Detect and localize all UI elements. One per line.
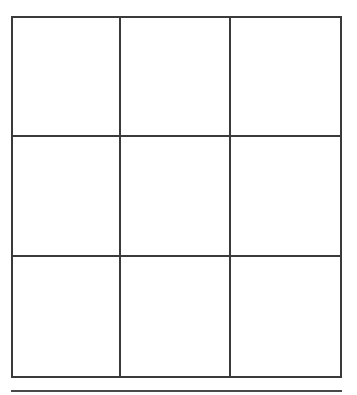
board-cell-0-2[interactable] <box>231 16 342 137</box>
game-area <box>0 0 357 395</box>
board-cell-1-0[interactable] <box>11 137 121 257</box>
board-cell-0-1[interactable] <box>121 16 231 137</box>
board-cell-2-1[interactable] <box>121 257 231 378</box>
game-board <box>11 16 342 378</box>
board-cell-2-2[interactable] <box>231 257 342 378</box>
divider-line <box>11 390 342 392</box>
board-cell-2-0[interactable] <box>11 257 121 378</box>
board-cell-1-2[interactable] <box>231 137 342 257</box>
board-cell-1-1[interactable] <box>121 137 231 257</box>
board-cell-0-0[interactable] <box>11 16 121 137</box>
